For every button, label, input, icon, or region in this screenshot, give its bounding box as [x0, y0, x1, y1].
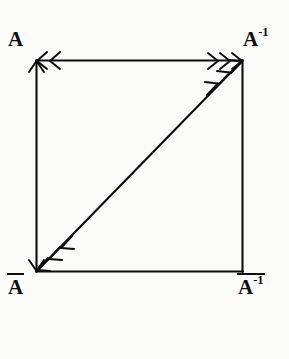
vertex-label-top-left: A: [8, 29, 23, 50]
vertex-label-top-right: A -1: [243, 29, 269, 50]
figure-root: A A -1 A A-1: [0, 0, 289, 359]
vertex-bottom-right-superscript: -1: [253, 273, 263, 287]
vertex-top-right-superscript: -1: [258, 25, 268, 39]
vertex-top-left-base: A: [8, 27, 23, 51]
vertex-top-right-base: A: [243, 27, 258, 51]
vertex-bottom-left-base: A: [8, 275, 23, 299]
diagram-canvas: [0, 0, 289, 359]
vertex-label-bottom-left: A: [8, 277, 23, 298]
overline-bar-bottom-left: [7, 273, 24, 275]
vertex-bottom-right-base: A: [238, 275, 253, 299]
vertex-label-bottom-right: A-1: [238, 277, 264, 298]
